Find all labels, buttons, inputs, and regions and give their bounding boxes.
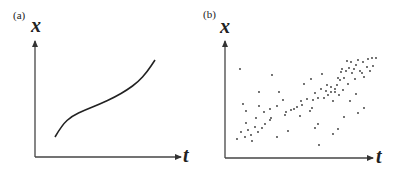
scatter-point	[276, 136, 278, 138]
scatter-point	[299, 115, 301, 117]
scatter-point	[251, 140, 253, 142]
scatter-point	[361, 72, 363, 74]
scatter-point	[318, 144, 320, 146]
scatter-point	[337, 77, 339, 79]
scatter-point	[239, 68, 241, 70]
scatter-point	[287, 130, 289, 132]
scatter-point	[245, 110, 247, 112]
scatter-point	[339, 79, 341, 81]
scatter-point	[300, 100, 302, 102]
scatter-point	[343, 77, 345, 79]
scatter-point	[359, 70, 361, 72]
panel-b-y-axis-label: x	[220, 15, 230, 38]
scatter-point	[332, 133, 334, 135]
scatter-point	[366, 66, 368, 68]
scatter-point	[269, 108, 271, 110]
scatter-point	[271, 74, 273, 76]
panel-a-label: (a)	[13, 9, 25, 21]
scatter-point	[353, 68, 355, 70]
scatter-point	[263, 111, 265, 113]
scatter-point	[323, 97, 325, 99]
panel-b-axes	[225, 41, 373, 158]
scatter-point	[258, 105, 260, 107]
scatter-point	[314, 127, 316, 129]
scatter-point	[301, 104, 303, 106]
scatter-point	[363, 107, 365, 109]
scatter-point	[245, 122, 247, 124]
scatter-point	[290, 109, 292, 111]
scatter-point	[240, 131, 242, 133]
scatter-point	[330, 91, 332, 93]
scatter-point	[247, 129, 249, 131]
scatter-point	[296, 106, 298, 108]
scatter-point	[276, 105, 278, 107]
scatter-point	[355, 64, 357, 66]
panel-a-curve	[55, 60, 155, 137]
scatter-point	[261, 127, 263, 129]
scatter-point	[306, 98, 308, 100]
scatter-point	[347, 83, 349, 85]
scatter-point	[357, 112, 359, 114]
scatter-point	[350, 61, 352, 63]
scatter-point	[242, 103, 244, 105]
scatter-point	[320, 88, 322, 90]
scatter-point	[284, 114, 286, 116]
scatter-point	[285, 111, 287, 113]
scatter-point	[330, 86, 332, 88]
scatter-point	[369, 70, 371, 72]
scatter-point	[334, 91, 336, 93]
scatter-point	[258, 91, 260, 93]
scatter-point	[317, 123, 319, 125]
scatter-point	[293, 108, 295, 110]
panel-a-y-axis-label: x	[31, 14, 41, 37]
scatter-point	[342, 89, 344, 91]
scatter-point	[340, 71, 342, 73]
scatter-point	[282, 99, 284, 101]
scatter-point	[363, 76, 365, 78]
scatter-point	[357, 59, 359, 61]
scatter-point	[314, 92, 316, 94]
scatter-point	[371, 57, 373, 59]
scatter-point	[337, 128, 339, 130]
scatter-point	[372, 65, 374, 67]
scatter-point	[355, 93, 357, 95]
panel-b-x-axis-label: t	[376, 145, 382, 168]
scatter-point	[269, 119, 271, 121]
scatter-point	[341, 68, 343, 70]
scatter-point	[312, 99, 314, 101]
scatter-point	[343, 116, 345, 118]
scatter-point	[264, 123, 266, 125]
scatter-point	[345, 70, 347, 72]
panel-b-label: (b)	[203, 8, 216, 20]
scatter-point	[310, 78, 312, 80]
scatter-point	[278, 91, 280, 93]
scatter-point	[327, 94, 329, 96]
scatter-point	[354, 78, 356, 80]
scatter-point	[321, 73, 323, 75]
scatter-point	[349, 100, 351, 102]
scatter-point	[334, 88, 336, 90]
scatter-point	[250, 134, 252, 136]
scatter-point	[257, 131, 259, 133]
scatter-point	[375, 57, 377, 59]
scatter-point	[325, 90, 327, 92]
scatter-point	[255, 117, 257, 119]
scatter-point	[351, 72, 353, 74]
figure	[0, 0, 394, 171]
scatter-point	[346, 60, 348, 62]
scatter-point	[362, 61, 364, 63]
scatter-point	[332, 100, 334, 102]
scatter-point	[254, 126, 256, 128]
scatter-point	[270, 117, 272, 119]
panel-a-x-axis-label: t	[183, 144, 189, 167]
scatter-point	[236, 138, 238, 140]
scatter-point	[336, 84, 338, 86]
scatter-point	[348, 67, 350, 69]
scatter-point	[338, 94, 340, 96]
scatter-point	[367, 58, 369, 60]
scatter-point	[317, 97, 319, 99]
scatter-point	[303, 83, 305, 85]
scatter-point	[244, 136, 246, 138]
scatter-point	[311, 107, 313, 109]
panel-b-scatter	[236, 57, 377, 146]
